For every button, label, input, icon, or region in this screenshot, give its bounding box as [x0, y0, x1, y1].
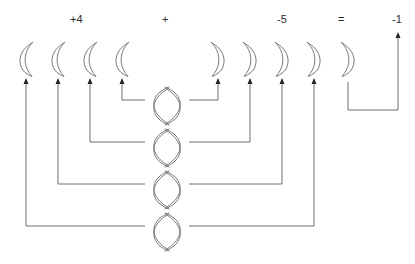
zero-pair-1-left-arrowhead [120, 78, 125, 84]
negative-counter-1[interactable] [212, 43, 225, 77]
zero-pair-3-left-link [58, 84, 145, 184]
zero-pair-3-right-arrowhead [280, 78, 285, 84]
diagram-canvas: +4 + -5 = -1 [0, 0, 415, 264]
operator-plus-label: + [162, 14, 168, 25]
zero-pair-1-left-link [122, 84, 145, 100]
zero-pair-knot-2[interactable] [154, 129, 180, 167]
operator-plus-text: + [162, 13, 168, 25]
positive-counter-3[interactable] [84, 43, 97, 77]
operator-equals-text: = [338, 13, 344, 25]
negative-counter-3[interactable] [276, 43, 289, 77]
diagram-vector-layer [0, 0, 415, 264]
operator-equals-label: = [338, 14, 344, 25]
term-second-label: -5 [277, 14, 287, 25]
zero-pair-3-right-link [189, 84, 282, 184]
zero-pair-4-left-link [26, 84, 145, 226]
negative-counter-2[interactable] [244, 43, 257, 77]
zero-pair-1-right-arrowhead [216, 78, 221, 84]
zero-pair-knot-4[interactable] [154, 213, 180, 251]
zero-pair-2-right-arrowhead [248, 78, 253, 84]
term-second-text: -5 [277, 13, 287, 25]
term-result-label: -1 [392, 14, 402, 25]
zero-pair-1-right-link [189, 84, 218, 100]
zero-pair-4-left-arrowhead [24, 78, 29, 84]
zero-pair-2-left-arrowhead [88, 78, 93, 84]
negative-counter-4[interactable] [308, 43, 321, 77]
result-arrowhead [396, 32, 401, 38]
zero-pair-knot-1[interactable] [154, 87, 180, 125]
zero-pair-3-left-arrowhead [56, 78, 61, 84]
negative-counter-5[interactable] [342, 43, 355, 77]
zero-pair-4-right-link [189, 84, 314, 226]
term-result-text: -1 [392, 13, 402, 25]
positive-counter-2[interactable] [52, 43, 65, 77]
zero-pair-knot-3[interactable] [154, 171, 180, 209]
zero-pair-2-left-link [90, 84, 145, 142]
positive-counter-4[interactable] [116, 43, 129, 77]
term-first-text: +4 [70, 13, 83, 25]
zero-pair-4-right-arrowhead [312, 78, 317, 84]
result-bracket-link [348, 38, 398, 110]
zero-pair-2-right-link [189, 84, 250, 142]
term-first-label: +4 [70, 14, 83, 25]
positive-counter-1[interactable] [20, 43, 33, 77]
